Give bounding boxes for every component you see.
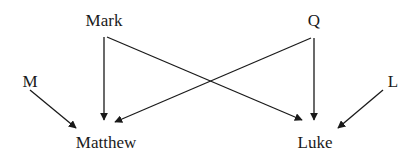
node-luke: Luke <box>298 134 333 151</box>
arrow-l-to-luke <box>338 90 383 128</box>
synoptic-diagram: Mark Q M L Matthew Luke <box>0 0 420 153</box>
arrow-mark-to-luke <box>107 37 302 120</box>
arrow-q-to-matthew <box>115 38 311 122</box>
node-q: Q <box>308 12 320 29</box>
arrow-m-to-matthew <box>30 90 76 128</box>
node-matthew: Matthew <box>76 134 136 151</box>
node-l: L <box>388 73 398 90</box>
node-mark: Mark <box>86 12 123 29</box>
edges-layer <box>0 0 420 153</box>
node-m: M <box>22 73 37 90</box>
